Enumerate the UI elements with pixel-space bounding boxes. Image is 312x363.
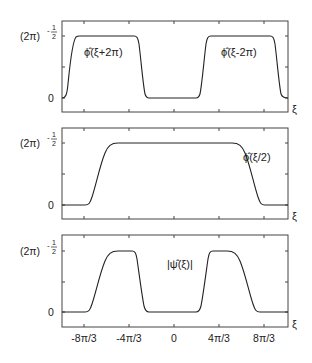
annotation-phi-xi-over-2: ϕ̂(ξ/2) <box>243 151 271 163</box>
panel-bottom: (2π) - 1 2 0 |ψ̂(ξ)| ξ -8π/3 -4π/3 0 4π/… <box>20 235 297 344</box>
ytick-exp-num-2: 1 <box>52 131 56 138</box>
annotation-psi-abs: |ψ̂(ξ)| <box>167 258 193 270</box>
ytick-top-label-2: (2π) <box>20 137 40 149</box>
ytick-exp-num: 1 <box>52 24 56 31</box>
xtick-label: 0 <box>171 332 177 344</box>
ytick-zero-middle: 0 <box>48 199 54 211</box>
xaxis-label-middle: ξ <box>292 210 297 222</box>
ytick-exp-den-3: 2 <box>52 248 56 255</box>
panel-middle: (2π) - 1 2 0 ϕ̂(ξ/2) ξ <box>20 128 297 222</box>
panel-bottom-ticks <box>62 235 288 327</box>
xtick-label: 8π/3 <box>253 332 275 344</box>
ytick-exp-minus-2: - <box>47 133 50 142</box>
xaxis-label-bottom: ξ <box>292 318 297 330</box>
xtick-labels: -8π/3 -4π/3 0 4π/3 8π/3 <box>71 332 275 344</box>
ytick-exp-num-3: 1 <box>52 239 56 246</box>
figure: (2π) - 1 2 0 ϕ̂(ξ+2π) ϕ̂(ξ-2π) ξ (2π) - … <box>0 0 312 363</box>
ytick-top-label-3: (2π) <box>20 245 40 257</box>
panel-middle-frame <box>62 128 288 219</box>
annotation-phi-xi-minus-2pi: ϕ̂(ξ-2π) <box>221 46 257 58</box>
xtick-label: -4π/3 <box>116 332 141 344</box>
panel-bottom-frame <box>62 235 288 327</box>
panel-middle-ticks <box>62 128 288 219</box>
xtick-label: -8π/3 <box>71 332 96 344</box>
xtick-label: 4π/3 <box>208 332 230 344</box>
xaxis-label-top: ξ <box>292 103 297 115</box>
ytick-top-label-1: (2π) <box>20 30 40 42</box>
ytick-exp-minus: - <box>47 26 50 35</box>
ytick-exp-minus-3: - <box>47 241 50 250</box>
panel-top: (2π) - 1 2 0 ϕ̂(ξ+2π) ϕ̂(ξ-2π) ξ <box>20 21 297 115</box>
ytick-zero-bottom: 0 <box>48 306 54 318</box>
ytick-zero-top: 0 <box>48 92 54 104</box>
annotation-phi-xi-plus-2pi: ϕ̂(ξ+2π) <box>84 46 123 58</box>
ytick-exp-den: 2 <box>52 33 56 40</box>
ytick-exp-den-2: 2 <box>52 140 56 147</box>
